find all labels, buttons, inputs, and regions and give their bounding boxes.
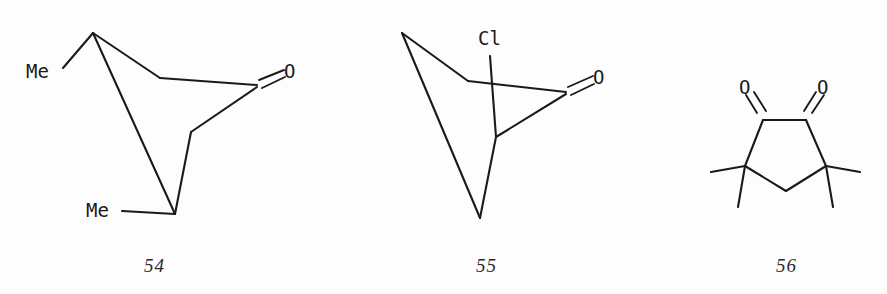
bond-carbonyl-double-lower-55: [571, 84, 594, 95]
bond-bridge-to-bottom-55: [480, 137, 496, 218]
carbonyl-oxygen-label-55: O: [593, 68, 604, 87]
bond-c3-c4-56: [786, 166, 826, 191]
bond-methyl-right-horizontal-56: [826, 166, 860, 172]
bond-c5-c4-56: [745, 166, 786, 191]
bond-cl-to-bridge-55: [490, 56, 496, 137]
methyl-label-upper-left-54: Me: [26, 62, 49, 81]
bond-carbonyl-left-double-b-56: [754, 92, 766, 111]
bond-methyl-right-down-56: [826, 166, 833, 207]
methyl-label-lower-left-54: Me: [86, 201, 109, 220]
carbonyl-oxygen-label-left-56: O: [739, 78, 750, 97]
bond-c1-c5-56: [745, 120, 763, 166]
structure-55-bonds: [402, 33, 594, 218]
chlorine-label-55: Cl: [478, 29, 501, 48]
caption-structure-56: 56: [776, 256, 797, 275]
bond-upper-mid-to-carbonyl-54: [160, 78, 257, 85]
bond-mid-lower-to-bottom-54: [175, 132, 191, 214]
carbonyl-oxygen-label-right-56: O: [817, 78, 828, 97]
chemical-structures-figure: Me Me O Cl O O O 54 55 56: [0, 0, 887, 294]
structure-56-bonds: [711, 92, 860, 207]
structure-54-bonds: [63, 33, 285, 214]
bond-carbonyl-to-bridge-55: [496, 94, 566, 137]
caption-structure-54: 54: [144, 256, 165, 275]
bond-methyl-left-down-56: [738, 166, 745, 207]
carbonyl-oxygen-label-54: O: [284, 62, 295, 81]
bond-upper-mid-to-carbonyl-55: [468, 81, 566, 92]
bond-me-to-apex-54: [63, 33, 93, 68]
structure-drawings: [0, 0, 887, 294]
bond-c2-c3-56: [806, 120, 826, 166]
bond-carbonyl-double-lower-54: [262, 77, 285, 88]
bond-carbonyl-to-mid-lower-54: [191, 87, 257, 132]
bond-me-to-bottom-54: [122, 211, 175, 214]
caption-structure-55: 55: [476, 256, 497, 275]
bond-methyl-left-horizontal-56: [711, 166, 745, 172]
